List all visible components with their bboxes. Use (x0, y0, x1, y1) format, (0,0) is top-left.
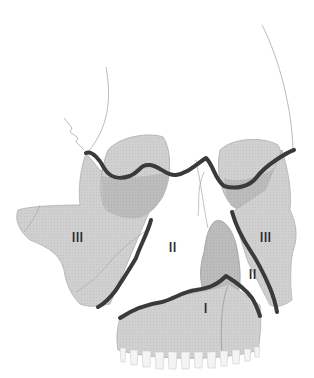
label-le-fort-II-center: II (169, 239, 177, 254)
label-le-fort-I: I (204, 300, 208, 315)
left-orbit-shadow (102, 172, 170, 218)
le-fort-diagram (0, 0, 314, 378)
label-le-fort-III-left: III (72, 229, 84, 244)
label-le-fort-II-right: II (249, 266, 257, 281)
maxilla (117, 284, 261, 358)
cranium-outline (64, 25, 293, 152)
label-le-fort-III-right: III (260, 229, 272, 244)
